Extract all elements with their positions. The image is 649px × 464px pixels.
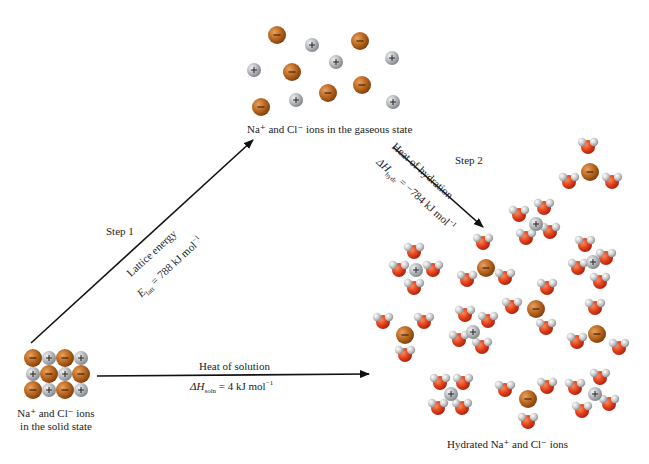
gaseous-state-label: Na⁺ and Cl⁻ ions in the gaseous state bbox=[247, 123, 412, 136]
eq-sub: soln bbox=[204, 387, 216, 395]
diagram-canvas bbox=[0, 0, 649, 464]
gaseous-ions bbox=[247, 26, 400, 116]
solid-lattice bbox=[24, 349, 90, 399]
solid-state-label: Na⁺ and Cl⁻ ions in the solid state bbox=[6, 407, 106, 433]
eq-symbol: ΔH bbox=[190, 380, 204, 392]
step1-label: Step 1 bbox=[106, 225, 134, 237]
eq-value: = 4 kJ mol bbox=[216, 380, 266, 392]
heat-of-solution-label: Heat of solution bbox=[199, 360, 270, 372]
eq-exp: −1 bbox=[266, 379, 273, 387]
solid-label-line1: Na⁺ and Cl⁻ ions bbox=[6, 407, 106, 420]
hydrated-label: Hydrated Na⁺ and Cl⁻ ions bbox=[447, 438, 568, 451]
step1-arrow bbox=[31, 140, 253, 343]
heat-of-solution-equation: ΔHsoln = 4 kJ mol−1 bbox=[190, 379, 273, 395]
step2-label: Step 2 bbox=[455, 154, 483, 166]
solid-label-line2: in the solid state bbox=[6, 420, 106, 433]
heat-of-solution-arrow bbox=[97, 374, 369, 376]
